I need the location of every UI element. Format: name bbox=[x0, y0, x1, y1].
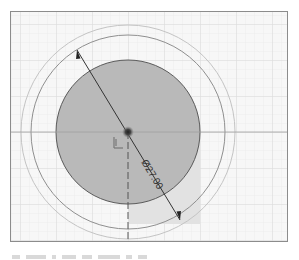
clipped-caption bbox=[12, 253, 162, 260]
sketch-canvas[interactable]: Ø27.00 bbox=[10, 11, 288, 242]
center-point-icon[interactable] bbox=[122, 126, 134, 138]
